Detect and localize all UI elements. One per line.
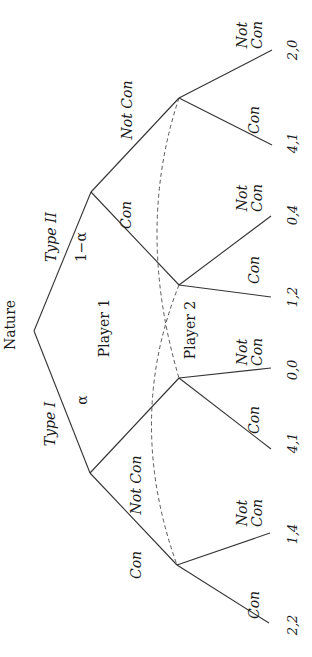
payoff-8: 2,2: [285, 615, 300, 637]
p2-a-con-label: Con: [249, 21, 265, 49]
p2-b-con-label: Con: [249, 184, 265, 212]
prob-type-i-label: α: [74, 395, 90, 405]
payoff-3: 0,4: [285, 205, 300, 226]
game-tree-diagram: Nature Type II 1−α Player 1 α Type I Not…: [0, 0, 312, 657]
typei-notcon-label: Not Con: [128, 456, 144, 516]
nature-label: Nature: [2, 300, 18, 350]
p2-c-consingle-label: Con: [246, 406, 262, 434]
typeii-notcon-label: Not Con: [119, 81, 135, 141]
p2-b-consingle-label: Con: [246, 256, 262, 284]
p2-c-not-label: Not: [234, 338, 250, 366]
edge-typeii-notcon: [91, 98, 179, 192]
p2-d-not-label: Not: [234, 499, 250, 527]
edge-p2-c-notcon: [179, 368, 271, 378]
player2-label: Player 2: [182, 301, 198, 360]
type-ii-label: Type II: [43, 212, 59, 262]
payoff-5: 0,0: [285, 360, 300, 381]
labels: Nature Type II 1−α Player 1 α Type I Not…: [2, 21, 265, 619]
payoff-2: 4,1: [285, 133, 300, 155]
payoff-6: 4,1: [285, 433, 300, 455]
payoff-1: 2,0: [285, 40, 300, 62]
typei-con-label: Con: [128, 551, 144, 579]
typeii-con-label: Con: [118, 201, 134, 229]
p2-d-consingle-label: Con: [246, 591, 262, 619]
p2-c-con-label: Con: [249, 338, 265, 366]
prob-type-ii-label: 1−α: [73, 231, 89, 262]
edge-p2-b-con: [179, 285, 271, 297]
player1-label: Player 1: [96, 299, 112, 358]
p2-a-not-label: Not: [234, 21, 250, 49]
edge-p2-a-notcon: [179, 50, 272, 98]
information-sets: [151, 98, 179, 565]
info-set-con: [151, 285, 179, 565]
payoff-7: 1,4: [285, 524, 300, 545]
info-set-notcon: [157, 98, 179, 378]
p2-b-not-label: Not: [234, 184, 250, 212]
p2-a-consingle-label: Con: [246, 106, 262, 134]
edge-typeii-con: [91, 192, 179, 285]
payoffs: 2,0 4,1 0,4 1,2 0,0 4,1 1,4 2,2: [285, 40, 300, 637]
payoff-4: 1,2: [285, 287, 300, 308]
p2-d-con-label: Con: [249, 499, 265, 527]
edge-p2-d-notcon: [177, 533, 270, 565]
type-i-label: Type I: [42, 401, 58, 446]
